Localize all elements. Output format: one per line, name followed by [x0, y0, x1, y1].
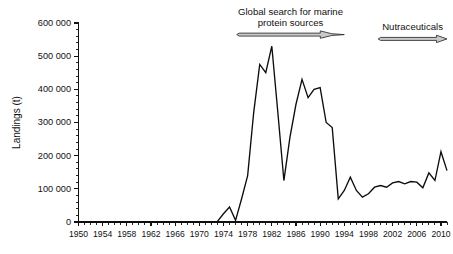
- x-tick-label: 1990: [311, 229, 330, 239]
- nutraceuticals-label: Nutraceuticals: [382, 21, 443, 32]
- x-tick-label: 1982: [262, 229, 281, 239]
- x-tick-label: 1950: [69, 229, 88, 239]
- nutraceuticals-arrow: [378, 35, 447, 42]
- x-tick-label: 1970: [190, 229, 209, 239]
- y-axis: 0100 000200 000300 000400 000500 000600 …: [38, 18, 79, 227]
- x-tick-label: 1994: [335, 229, 354, 239]
- global-search-arrow-shape: [237, 31, 345, 38]
- y-tick-label: 300 000: [38, 117, 71, 127]
- nutraceuticals-arrow-shape: [378, 35, 447, 42]
- y-tick-label: 600 000: [38, 18, 71, 28]
- global-search-label: Global search for marine: [238, 6, 343, 17]
- y-tick-label: 400 000: [38, 84, 71, 94]
- x-tick-label: 1974: [214, 229, 233, 239]
- x-tick-label: 2010: [431, 229, 450, 239]
- annotations-group: Global search for marineprotein sourcesN…: [237, 6, 447, 43]
- global-search-label: protein sources: [258, 17, 324, 28]
- x-tick-label: 2006: [407, 229, 426, 239]
- y-axis-title-text: Landings (t): [11, 96, 22, 149]
- x-tick-label: 1998: [359, 229, 378, 239]
- y-axis-title: Landings (t): [11, 96, 22, 149]
- global-search-arrow: [237, 31, 345, 38]
- y-tick-label: 100 000: [38, 184, 71, 194]
- y-tick-label: 0: [66, 217, 71, 227]
- x-axis: 1950195419581962196619701974197819821986…: [69, 222, 451, 239]
- y-tick-label: 200 000: [38, 151, 71, 161]
- x-tick-label: 1954: [93, 229, 112, 239]
- x-tick-label: 2002: [383, 229, 402, 239]
- x-tick-label: 1966: [166, 229, 185, 239]
- x-tick-label: 1958: [117, 229, 136, 239]
- x-tick-label: 1986: [286, 229, 305, 239]
- x-tick-label: 1962: [141, 229, 160, 239]
- series-line-landings: [79, 46, 448, 222]
- x-tick-label: 1978: [238, 229, 257, 239]
- y-tick-label: 500 000: [38, 51, 71, 61]
- landings-line-chart: 0100 000200 000300 000400 000500 000600 …: [0, 0, 453, 254]
- data-series-group: [79, 46, 448, 222]
- chart-figure: 0100 000200 000300 000400 000500 000600 …: [0, 0, 453, 254]
